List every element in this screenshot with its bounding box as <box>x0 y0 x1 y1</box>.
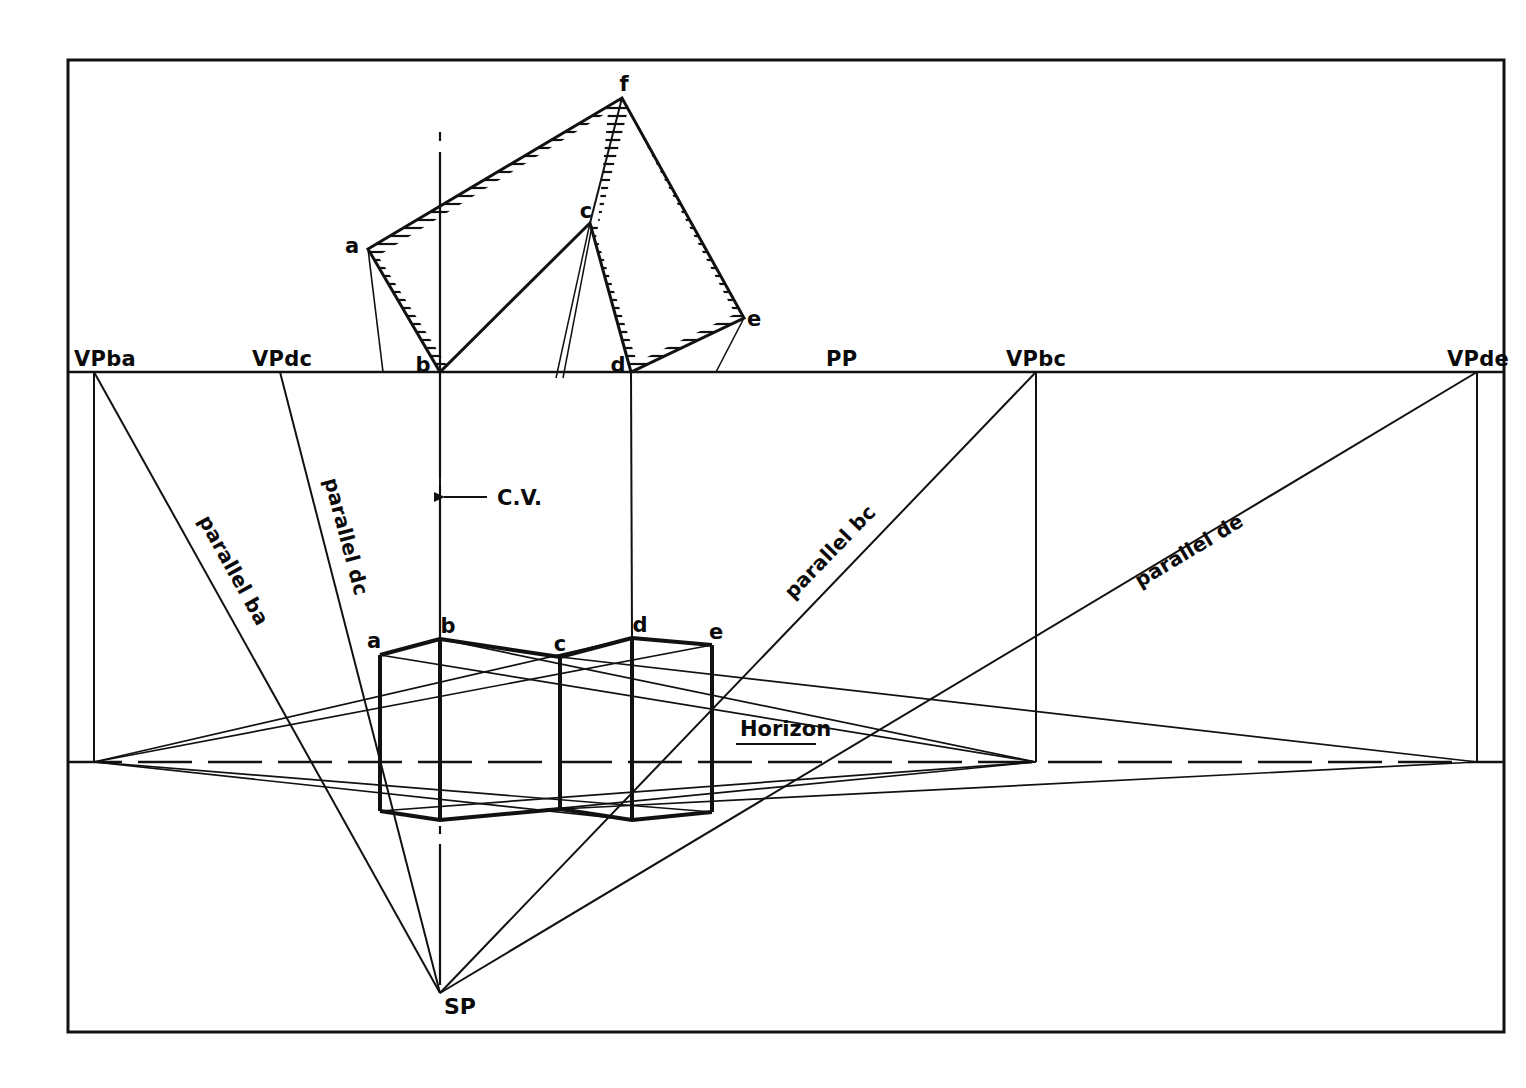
station-point-label: SP <box>444 994 476 1019</box>
persp-label-e: e <box>709 620 723 644</box>
cv-label: C.V. <box>497 486 542 510</box>
persp-label-b: b <box>440 614 455 638</box>
plan-label-a: a <box>345 234 359 258</box>
ray-parallel-dc <box>280 372 440 993</box>
plan-label-d: d <box>610 353 625 377</box>
persp-label-d: d <box>632 613 647 637</box>
persp-label-c: c <box>554 632 566 656</box>
ray-label-parallel-ba: parallel ba <box>194 511 274 630</box>
drawing-canvas: a b c d e f C.V. Horizon <box>0 0 1526 1088</box>
vp-label-bc: VPbc <box>1006 347 1066 371</box>
plan-label-c: c <box>580 199 592 223</box>
vp-label-ba: VPba <box>74 347 136 371</box>
perspective-bottom-edge <box>380 809 712 820</box>
vp-label-dc: VPdc <box>252 347 312 371</box>
perspective-prism-group <box>380 638 712 820</box>
ray-parallel-ba <box>94 372 440 993</box>
plan-label-b: b <box>415 353 430 377</box>
ray-parallel-bc <box>440 372 1036 993</box>
plan-view-group <box>350 80 770 390</box>
plan-label-f: f <box>619 72 629 96</box>
vp-label-de: VPde <box>1447 347 1509 371</box>
ray-parallel-de <box>440 372 1477 993</box>
ray-label-parallel-de: parallel de <box>1130 509 1247 593</box>
drawing-border <box>68 60 1504 1032</box>
persp-label-a: a <box>367 629 381 653</box>
ray-label-parallel-dc: parallel dc <box>319 475 373 598</box>
perspective-construction-drawing: a b c d e f C.V. Horizon <box>0 0 1526 1088</box>
pp-label: PP <box>826 347 857 371</box>
plan-label-e: e <box>747 307 761 331</box>
projector-vertical-d <box>631 372 632 638</box>
